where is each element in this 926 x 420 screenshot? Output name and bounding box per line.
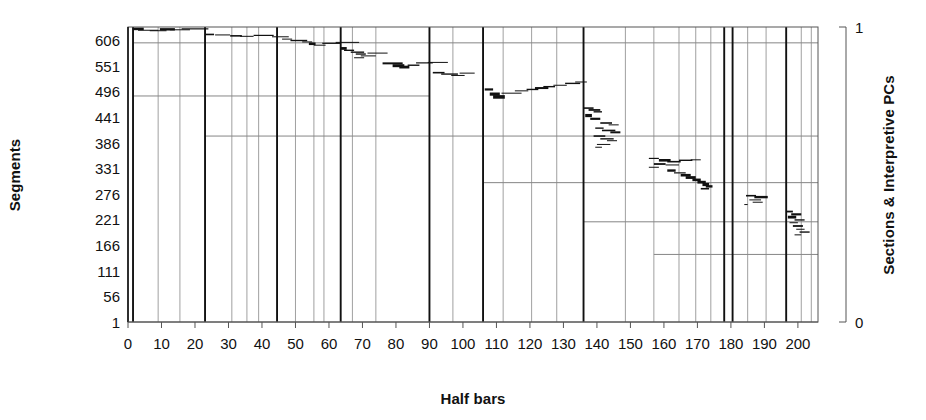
horizontal-gridlines	[133, 43, 818, 255]
secondary-y-axis-ticks	[839, 27, 846, 322]
x-axis-ticks	[128, 322, 798, 328]
plot-area	[0, 0, 926, 420]
data-segments	[133, 29, 810, 235]
chart-container: Segments Sections & Interpretive PCs Hal…	[0, 0, 926, 420]
minor-section-lines	[158, 27, 811, 322]
